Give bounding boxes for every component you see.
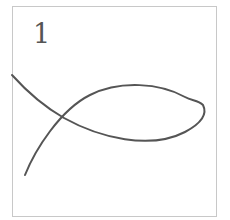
fish-curve-drawing — [0, 0, 230, 220]
fish-curve — [12, 75, 204, 175]
